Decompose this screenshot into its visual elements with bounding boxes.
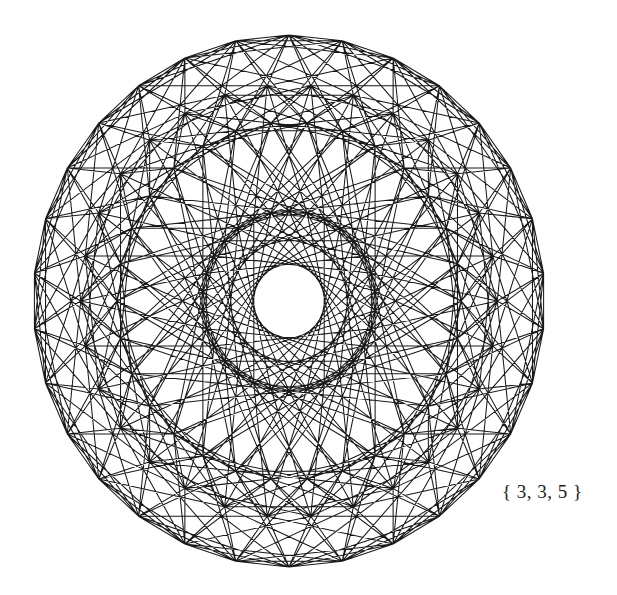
schlafli-symbol-label: { 3, 3, 5 }	[502, 481, 583, 503]
polytope-edges	[34, 35, 543, 567]
edge-lines	[34, 35, 543, 567]
polytope-projection-figure	[0, 0, 617, 595]
